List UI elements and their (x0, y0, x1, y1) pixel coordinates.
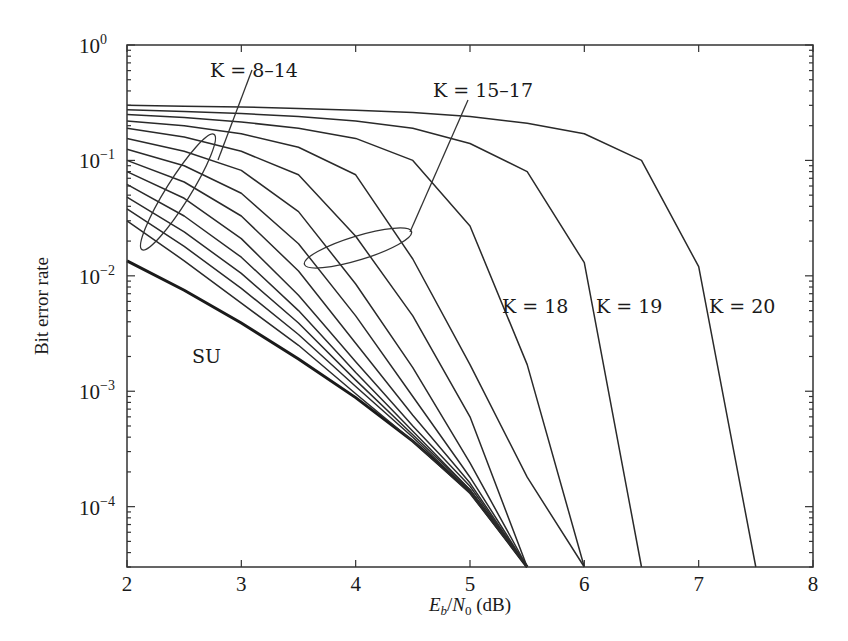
y-tick-label: 10−1 (79, 147, 115, 173)
x-tick-label: 4 (350, 572, 361, 596)
x-tick-label: 7 (693, 572, 704, 596)
y-tick-label: 100 (79, 32, 107, 58)
annotation-k20: K = 20 (709, 295, 775, 317)
curve-k-13 (127, 160, 527, 567)
x-tick-label: 3 (236, 572, 247, 596)
curve-k-15 (127, 138, 527, 567)
curve-group (127, 105, 756, 567)
annotation-k18: K = 18 (502, 295, 568, 317)
ellipse-k8-14 (132, 128, 224, 256)
leader-k15-17 (410, 100, 468, 232)
x-tick-label: 8 (808, 572, 819, 596)
ellipse-k15-17 (301, 220, 415, 276)
annotation-su: SU (192, 345, 221, 367)
leader-k8-14 (218, 70, 252, 160)
y-tick-label: 10−3 (79, 378, 115, 404)
curve-k-18 (127, 115, 584, 568)
curve-k-11 (127, 184, 527, 567)
annotation-k19: K = 19 (596, 295, 662, 317)
y-axis-title: Bit error rate (31, 257, 52, 355)
y-tick-label: 10−4 (79, 494, 115, 520)
curve-k-16 (127, 128, 527, 567)
annotation-k8-14: K = 8–14 (210, 59, 298, 81)
curve-k-20 (127, 105, 756, 567)
annotation-k15-17: K = 15–17 (433, 79, 533, 101)
curve-k-10 (127, 197, 527, 567)
x-tick-label: 5 (465, 572, 476, 596)
x-tick-label: 6 (579, 572, 590, 596)
x-tick-label: 2 (122, 572, 133, 596)
curve-k-8 (127, 221, 527, 567)
ber-chart: 234567810010−110−210−310−4 K = 8–14 K = … (0, 0, 848, 641)
y-tick-label: 10−2 (79, 263, 115, 289)
x-axis-title: Eb/N0 (dB) (428, 594, 511, 618)
